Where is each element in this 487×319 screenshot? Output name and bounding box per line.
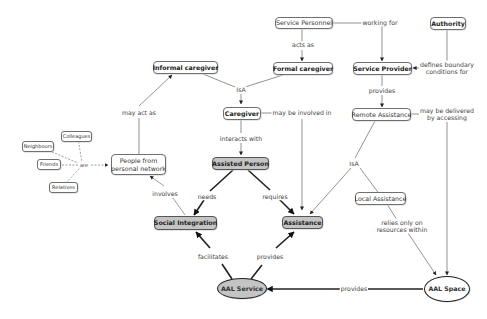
node-friends: Friends bbox=[37, 159, 61, 170]
node-neighbours: Neighbours bbox=[22, 141, 54, 152]
link-defines-boundary: defines boundary conditions for bbox=[419, 61, 475, 76]
node-people-line1: People from bbox=[120, 157, 158, 164]
link-provides-service: provides bbox=[340, 285, 368, 292]
link-relies-line1: relies only on bbox=[377, 219, 428, 226]
node-social-integration: Social Integration bbox=[154, 216, 217, 230]
link-defines-line1: defines boundary bbox=[420, 61, 474, 68]
node-assisted-person: Assisted Person bbox=[212, 157, 269, 170]
node-caregiver: Caregiver bbox=[223, 107, 261, 120]
link-relies-line2: resources within bbox=[377, 226, 428, 233]
link-acts-as: acts as bbox=[291, 41, 315, 48]
link-isa-caregiver: IsA bbox=[235, 86, 246, 93]
link-may-be-delivered: may be delivered by accessing bbox=[419, 107, 475, 122]
node-formal-caregiver: Formal caregiver bbox=[273, 62, 333, 75]
node-aal-space: AAL Space bbox=[424, 276, 470, 302]
link-needs: needs bbox=[197, 193, 218, 200]
link-working-for: working for bbox=[361, 19, 398, 26]
link-are: are bbox=[79, 162, 89, 168]
node-assistance: Assistance bbox=[282, 216, 323, 229]
node-aal-service: AAL Service bbox=[217, 278, 267, 299]
link-may-act-as: may act as bbox=[121, 109, 157, 116]
node-people-line2: personal network bbox=[111, 165, 166, 172]
node-relatives: Relatives bbox=[49, 182, 78, 193]
node-colleagues: Colleagues bbox=[61, 131, 92, 142]
node-local-assistance: Local Assistance bbox=[355, 192, 406, 205]
link-interacts-with: interacts with bbox=[219, 135, 263, 142]
node-remote-assistance: Remote Assistance bbox=[352, 108, 411, 121]
link-involves: involves bbox=[151, 190, 179, 197]
node-authority: Authority bbox=[430, 17, 466, 30]
link-delivered-line1: may be delivered bbox=[420, 107, 474, 114]
node-service-personnel: Service Personnel bbox=[275, 17, 333, 29]
node-people-from-personal-network: People from personal network bbox=[111, 154, 166, 175]
link-requires: requires bbox=[261, 193, 288, 200]
link-may-be-involved-in: may be involved in bbox=[272, 109, 333, 116]
link-isa-assistance: IsA bbox=[348, 160, 359, 167]
link-provides-remote: provides bbox=[368, 87, 396, 94]
link-relies-only-on: relies only on resources within bbox=[376, 219, 429, 234]
link-provides-assistance: provides bbox=[256, 253, 284, 260]
link-defines-line2: conditions for bbox=[420, 68, 474, 75]
node-informal-caregiver: Informal caregiver bbox=[153, 61, 218, 74]
link-facilitates: facilitates bbox=[197, 253, 229, 260]
node-service-provider: Service Provider bbox=[353, 62, 412, 75]
link-delivered-line2: by accessing bbox=[420, 114, 474, 121]
